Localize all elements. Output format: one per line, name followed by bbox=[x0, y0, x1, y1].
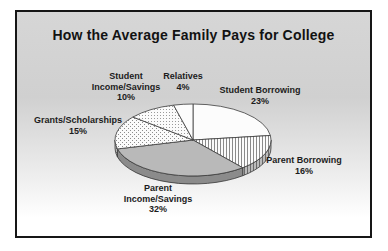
slice-label-parent-income-savings: Parent Income/Savings 32% bbox=[116, 183, 200, 215]
figure: How the Average Family Pays for College … bbox=[0, 0, 388, 251]
slice-label-text: Parent Income/Savings bbox=[116, 183, 200, 204]
slice-pct-text: 10% bbox=[84, 92, 168, 103]
pie-group bbox=[115, 104, 271, 184]
slice-pct-text: 32% bbox=[116, 204, 200, 215]
slice-pct-text: 16% bbox=[254, 166, 354, 177]
slice-label-text: Grants/Scholarships bbox=[22, 115, 134, 126]
pie-slice-student-borrowing bbox=[193, 104, 270, 140]
slice-label-grants-scholarships: Grants/Scholarships 15% bbox=[22, 115, 134, 136]
slice-label-text: Relatives bbox=[148, 71, 218, 82]
slice-label-student-borrowing: Student Borrowing 23% bbox=[205, 85, 315, 106]
slice-pct-text: 23% bbox=[205, 96, 315, 107]
slice-label-parent-borrowing: Parent Borrowing 16% bbox=[254, 155, 354, 176]
slice-label-text: Parent Borrowing bbox=[254, 155, 354, 166]
slice-pct-text: 15% bbox=[22, 126, 134, 137]
slice-label-text: Student Borrowing bbox=[205, 85, 315, 96]
